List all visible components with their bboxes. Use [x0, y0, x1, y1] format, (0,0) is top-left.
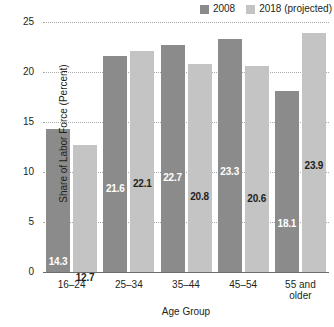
bar-value-label: 22.7	[163, 173, 182, 183]
legend-swatch-2018-projected	[246, 5, 255, 14]
chart-legend: 2008 2018 (projected)	[200, 2, 332, 16]
bar-value-label: 20.8	[190, 192, 209, 202]
bar-2018-16-24[interactable]: 12.7	[73, 145, 97, 272]
bar-groups: 14.3 12.7 21.6 22.1 22.7 20.8	[43, 22, 329, 272]
x-label-line1: 55 and	[272, 279, 329, 290]
bar-group-25-34: 21.6 22.1	[100, 22, 157, 272]
bar-chart: 2008 2018 (projected) 25 20 15 10 5 0 14…	[0, 0, 334, 327]
y-tick-label-10: 10	[0, 167, 34, 177]
x-axis-labels: 16–24 25–34 35–44 45–54 55 and older	[43, 279, 329, 301]
bar-value-label: 23.3	[220, 167, 239, 177]
x-label-line1: 25–34	[100, 279, 157, 290]
x-label-line1: 16–24	[43, 279, 100, 290]
x-label-line2: older	[272, 290, 329, 301]
x-axis-title: Age Group	[43, 306, 329, 317]
y-tick-label-20: 20	[0, 67, 34, 77]
bar-2008-25-34[interactable]: 21.6	[103, 56, 127, 272]
x-label-55-and-older: 55 and older	[272, 279, 329, 301]
y-tick-label-15: 15	[0, 117, 34, 127]
plot-area: 25 20 15 10 5 0 14.3 12.7 21.6	[43, 22, 329, 275]
bar-value-label: 20.6	[247, 194, 266, 204]
bar-group-16-24: 14.3 12.7	[43, 22, 100, 272]
bar-2018-25-34[interactable]: 22.1	[130, 51, 154, 272]
bar-group-55-and-older: 18.1 23.9	[272, 22, 329, 272]
bar-2018-55-and-older[interactable]: 23.9	[302, 33, 326, 272]
bar-value-label: 22.1	[133, 179, 152, 189]
bar-value-label: 14.3	[49, 257, 68, 267]
legend-label-2018-projected: 2018 (projected)	[259, 4, 332, 14]
legend-item-2018-projected[interactable]: 2018 (projected)	[246, 4, 332, 14]
legend-swatch-2008	[200, 5, 209, 14]
bar-value-label: 18.1	[278, 219, 297, 229]
bar-2008-45-54[interactable]: 23.3	[218, 39, 242, 272]
x-label-35-44: 35–44	[157, 279, 214, 301]
x-label-line1: 45–54	[215, 279, 272, 290]
x-label-16-24: 16–24	[43, 279, 100, 301]
bar-group-35-44: 22.7 20.8	[157, 22, 214, 272]
bar-2008-55-and-older[interactable]: 18.1	[275, 91, 299, 272]
x-label-45-54: 45–54	[215, 279, 272, 301]
bar-group-45-54: 23.3 20.6	[215, 22, 272, 272]
legend-item-2008[interactable]: 2008	[200, 4, 235, 14]
bar-value-label: 23.9	[305, 161, 324, 171]
legend-label-2008: 2008	[213, 4, 235, 14]
y-tick-label-0: 0	[0, 267, 34, 277]
y-tick-label-25: 25	[0, 17, 34, 27]
x-label-line1: 35–44	[157, 279, 214, 290]
bar-2008-35-44[interactable]: 22.7	[161, 45, 185, 272]
bar-value-label: 21.6	[106, 184, 125, 194]
y-tick-label-5: 5	[0, 217, 34, 227]
x-label-25-34: 25–34	[100, 279, 157, 301]
bar-2018-45-54[interactable]: 20.6	[245, 66, 269, 272]
y-axis-title: Share of Labor Force (Percent)	[58, 39, 69, 229]
bar-2018-35-44[interactable]: 20.8	[188, 64, 212, 272]
